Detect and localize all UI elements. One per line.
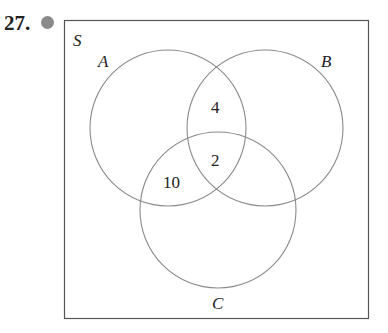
region-abc: 2 <box>211 151 220 170</box>
region-ab: 4 <box>211 98 220 117</box>
label-c: C <box>212 294 224 313</box>
venn-diagram: S A B C 4 2 10 <box>0 0 388 333</box>
label-s: S <box>73 31 82 50</box>
label-a: A <box>97 52 109 71</box>
label-b: B <box>321 52 332 71</box>
circle-b <box>187 50 343 206</box>
region-ac: 10 <box>163 173 180 192</box>
